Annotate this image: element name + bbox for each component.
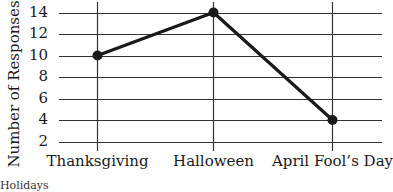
y-tick-12: 12	[26, 26, 48, 41]
y-tick-2: 2	[26, 134, 48, 149]
data-point-1	[209, 8, 219, 18]
data-point-2	[328, 115, 338, 125]
y-tick-14: 14	[26, 5, 48, 20]
y-tick-6: 6	[26, 91, 48, 106]
series-line	[98, 13, 333, 121]
data-point-0	[93, 51, 103, 61]
x-axis-title-cropped: Holidays	[0, 179, 49, 192]
y-tick-8: 8	[26, 69, 48, 84]
y-tick-4: 4	[26, 112, 48, 127]
x-tick-april-fools-day: April Fool’s Day	[272, 152, 393, 170]
x-tick-thanksgiving: Thanksgiving	[47, 152, 149, 170]
data-series	[93, 8, 338, 126]
vertical-gridlines	[98, 2, 333, 151]
y-axis-label: Number of Responses	[5, 0, 23, 167]
x-tick-halloween: Halloween	[173, 152, 254, 170]
y-tick-10: 10	[26, 48, 48, 63]
